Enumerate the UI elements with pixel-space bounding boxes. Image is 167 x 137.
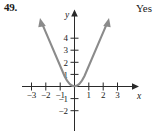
x-tick-label-1: 1	[87, 90, 92, 100]
y-tick-label-neg2: −2	[58, 106, 68, 116]
y-tick-label-neg1: −1	[58, 94, 68, 104]
y-axis-label: y	[64, 10, 70, 20]
x-tick-label-3: 3	[115, 90, 120, 100]
x-tick-label-neg2: −2	[41, 90, 51, 100]
x-tick-label-2: 2	[101, 90, 106, 100]
curve-arrow-left-icon	[38, 18, 46, 27]
y-tick-label-2: 2	[64, 58, 69, 68]
curve-arrow-right-icon	[103, 18, 111, 27]
x-axis-label: x	[136, 91, 142, 101]
y-tick-label-3: 3	[64, 45, 69, 55]
coordinate-plane-svg: −3 −2 −1 1 2 3 4 3 2 1 −1 −2 x y	[0, 0, 167, 137]
exercise-figure-panel: 49. Yes	[0, 0, 167, 137]
parabola-graph: −3 −2 −1 1 2 3 4 3 2 1 −1 −2 x y	[0, 0, 167, 137]
y-axis-arrow-icon	[71, 10, 78, 17]
x-tick-label-neg3: −3	[27, 90, 37, 100]
y-tick-label-4: 4	[64, 33, 69, 43]
x-axis-arrow-icon	[132, 83, 139, 90]
